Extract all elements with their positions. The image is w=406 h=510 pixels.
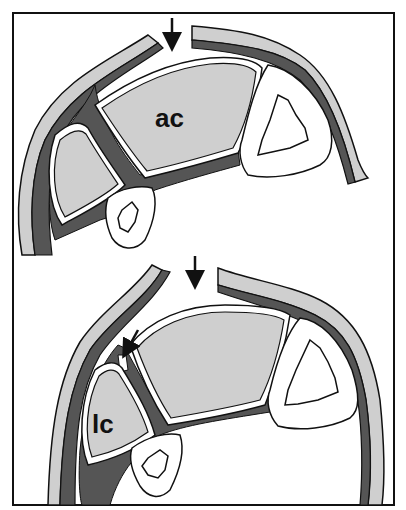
anatomical-diagram: ac	[0, 0, 406, 510]
label-lc: lc	[92, 409, 114, 439]
top-panel: ac	[18, 18, 368, 255]
fibula-bottom	[130, 434, 182, 496]
label-ac: ac	[155, 103, 184, 133]
bottom-panel: lc	[48, 256, 384, 505]
fibula-top	[106, 187, 155, 248]
